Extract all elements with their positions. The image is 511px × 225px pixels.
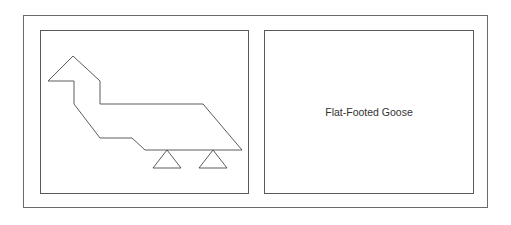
goose-tangram-icon (0, 0, 511, 225)
right-foot (199, 150, 227, 168)
left-foot (153, 150, 181, 168)
goose-body-outline (48, 56, 242, 150)
